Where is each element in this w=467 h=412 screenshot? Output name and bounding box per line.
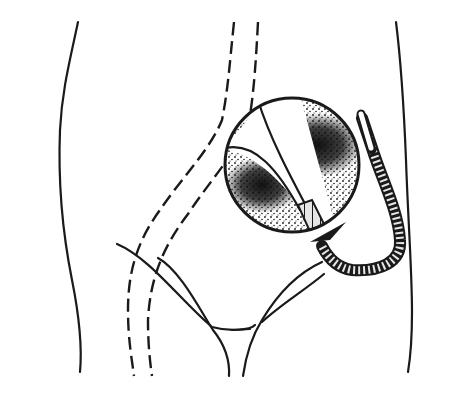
illustration-canvas: Outline of lower torso/pelvis with dashe… [0, 0, 467, 412]
torso-outline-right [396, 22, 412, 372]
medical-illustration [0, 0, 467, 412]
magnified-inset [220, 95, 370, 240]
torso-outline-left [60, 22, 81, 372]
